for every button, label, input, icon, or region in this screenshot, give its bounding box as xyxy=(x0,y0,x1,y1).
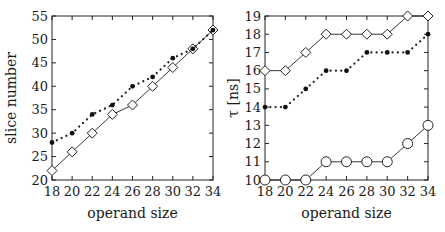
y-tick-label: 13 xyxy=(244,118,261,133)
circle-marker xyxy=(301,175,311,185)
dot-marker xyxy=(150,75,155,80)
dot-marker xyxy=(50,140,55,145)
x-axis-label: operand size xyxy=(301,205,391,221)
y-tick-label: 30 xyxy=(31,126,48,141)
y-tick-label: 55 xyxy=(31,9,48,24)
circle-marker xyxy=(382,157,392,167)
series-dot-dotted xyxy=(50,28,216,145)
circle-marker xyxy=(260,175,270,185)
dot-marker xyxy=(190,46,195,51)
y-tick-label: 10 xyxy=(244,173,261,188)
plot-frame xyxy=(265,16,428,180)
circle-marker xyxy=(342,157,352,167)
dot-marker xyxy=(324,68,329,73)
circle-marker xyxy=(280,175,290,185)
y-tick-label: 40 xyxy=(31,79,48,94)
diamond-marker xyxy=(260,66,270,76)
diamond-marker xyxy=(423,11,433,21)
x-tick-label: 22 xyxy=(84,184,101,199)
plot-frame xyxy=(52,16,213,180)
y-tick-label: 25 xyxy=(31,149,48,164)
y-tick-label: 45 xyxy=(31,55,48,70)
dot-marker xyxy=(364,50,369,55)
y-tick-label: 20 xyxy=(31,173,48,188)
dot-marker xyxy=(405,50,410,55)
dot-marker xyxy=(303,86,308,91)
x-tick-label: 24 xyxy=(104,184,121,199)
circle-marker xyxy=(423,120,433,130)
dot-marker xyxy=(211,28,216,33)
x-tick-label: 20 xyxy=(277,184,294,199)
circle-marker xyxy=(321,157,331,167)
y-tick-label: 19 xyxy=(244,9,261,24)
y-tick-label: 35 xyxy=(31,102,48,117)
y-axis-label: slice number xyxy=(3,52,19,144)
series-circle-solid xyxy=(260,120,433,185)
x-tick-label: 34 xyxy=(205,184,222,199)
dot-marker xyxy=(130,84,135,89)
dot-marker xyxy=(263,105,268,110)
x-tick-label: 32 xyxy=(185,184,202,199)
y-tick-label: 11 xyxy=(244,154,261,169)
diamond-marker xyxy=(362,29,372,39)
y-tick-label: 15 xyxy=(244,81,261,96)
dot-marker xyxy=(90,112,95,117)
y-tick-label: 17 xyxy=(244,45,261,60)
dot-marker xyxy=(385,50,390,55)
x-tick-label: 24 xyxy=(318,184,335,199)
x-tick-label: 26 xyxy=(124,184,141,199)
dot-marker xyxy=(70,131,75,136)
diamond-marker xyxy=(342,29,352,39)
y-axis-label: τ [ns] xyxy=(225,78,241,117)
x-tick-label: 32 xyxy=(399,184,416,199)
y-tick-label: 16 xyxy=(244,63,261,78)
x-axis-label: operand size xyxy=(87,205,177,221)
chart-figure: 1820222426283032342025303540455055operan… xyxy=(0,0,445,232)
dot-marker xyxy=(344,68,349,73)
chart-panel-right: 18202224262830323410111213141516171819op… xyxy=(225,9,436,222)
dot-marker xyxy=(426,32,431,37)
x-tick-label: 30 xyxy=(379,184,396,199)
dot-marker xyxy=(110,103,115,108)
y-tick-label: 14 xyxy=(244,100,261,115)
y-tick-label: 12 xyxy=(244,136,261,151)
x-tick-label: 28 xyxy=(144,184,161,199)
x-tick-label: 30 xyxy=(164,184,181,199)
dot-marker xyxy=(170,56,175,61)
series-diamond-solid xyxy=(260,11,433,76)
x-tick-label: 20 xyxy=(64,184,81,199)
x-tick-label: 26 xyxy=(338,184,355,199)
y-tick-label: 50 xyxy=(31,32,48,47)
circle-marker xyxy=(403,139,413,149)
x-tick-label: 34 xyxy=(420,184,437,199)
x-tick-label: 28 xyxy=(359,184,376,199)
y-tick-label: 18 xyxy=(244,27,261,42)
chart-panel-left: 1820222426283032342025303540455055operan… xyxy=(3,9,221,222)
circle-marker xyxy=(362,157,372,167)
dot-marker xyxy=(283,105,288,110)
x-tick-label: 22 xyxy=(297,184,314,199)
